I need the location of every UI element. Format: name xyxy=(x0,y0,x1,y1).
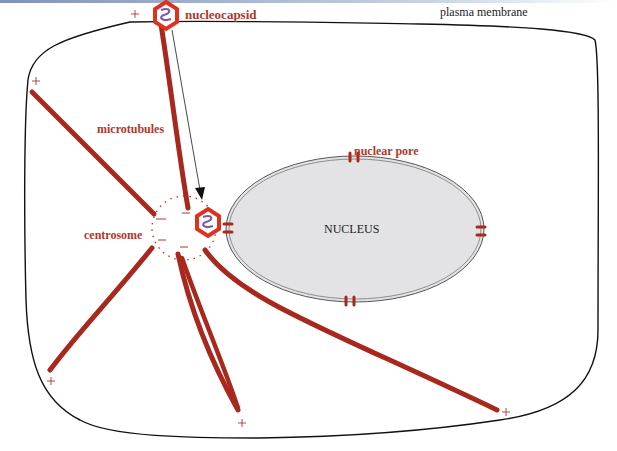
label-microtubules: microtubules xyxy=(97,122,164,137)
microtubule-extra xyxy=(0,0,617,451)
label-centrosome: centrosome xyxy=(84,228,142,243)
label-nucleus: NUCLEUS xyxy=(324,222,379,237)
label-plasma-membrane: plasma membrane xyxy=(440,5,528,20)
label-nucleocapsid: nucleocapsid xyxy=(185,7,257,23)
label-nuclear-pore: nuclear pore xyxy=(354,144,419,159)
